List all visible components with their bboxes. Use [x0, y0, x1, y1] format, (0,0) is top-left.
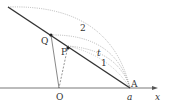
- point-Q: [49, 33, 52, 36]
- label-A: A: [130, 79, 138, 89]
- label-O: O: [56, 92, 63, 102]
- label-x: x: [155, 92, 160, 102]
- label-arc-outer: 2: [80, 23, 86, 33]
- label-P: P: [61, 47, 67, 57]
- label-a: a: [127, 92, 132, 102]
- label-Q: Q: [41, 36, 48, 46]
- geometry-diagram: Q P O A a x 2 t 1: [0, 0, 172, 106]
- axis-arrow-icon: [152, 86, 158, 90]
- segment-QO: [51, 35, 59, 88]
- label-arc-inner: 1: [101, 58, 107, 68]
- label-arc-middle: t: [97, 48, 101, 58]
